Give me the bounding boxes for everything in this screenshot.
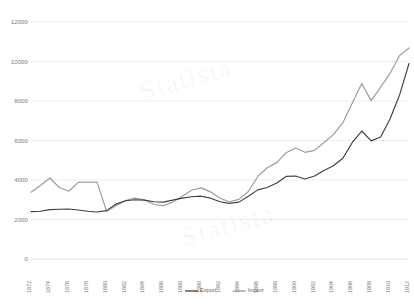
y-tick-label: 12000: [11, 18, 29, 25]
legend-label-import[interactable]: Import: [248, 287, 264, 293]
x-tick-label: 1906: [347, 281, 353, 293]
y-tick-label: 8000: [14, 97, 28, 104]
y-axis-labels: 020004000600080001000012000: [11, 18, 29, 262]
x-tick-label: 1904: [328, 281, 334, 293]
series-line-import: [31, 48, 409, 211]
x-tick-label: 1912: [404, 281, 410, 293]
y-tick-label: 2000: [14, 216, 28, 223]
x-tick-label: 1900: [291, 281, 297, 293]
series-line-export: [31, 63, 409, 212]
gridlines: [31, 22, 409, 259]
x-tick-label: 1884: [139, 281, 145, 293]
y-tick-label: 0: [25, 255, 29, 262]
x-tick-label: 1872: [26, 281, 32, 293]
x-axis-labels: 1872187418761878188018821884188618881890…: [26, 281, 410, 293]
x-tick-label: 1882: [121, 281, 127, 293]
y-tick-label: 10000: [11, 58, 29, 65]
y-tick-label: 4000: [14, 176, 28, 183]
y-tick-label: 6000: [14, 137, 28, 144]
legend-label-export[interactable]: Export: [200, 287, 217, 293]
series-group: [31, 48, 409, 212]
x-tick-label: 1908: [366, 281, 372, 293]
chart-canvas: 020004000600080001000012000 187218741876…: [0, 0, 414, 305]
x-tick-label: 1880: [102, 281, 108, 293]
x-tick-label: 1910: [385, 281, 391, 293]
x-tick-label: 1874: [45, 281, 51, 293]
x-tick-label: 1876: [64, 281, 70, 293]
x-tick-label: 1886: [158, 281, 164, 293]
line-chart: Statista Statista 0200040006000800010000…: [0, 0, 414, 305]
x-tick-label: 1888: [177, 281, 183, 293]
x-tick-label: 1902: [310, 281, 316, 293]
x-tick-label: 1898: [272, 281, 278, 293]
x-tick-label: 1878: [83, 281, 89, 293]
